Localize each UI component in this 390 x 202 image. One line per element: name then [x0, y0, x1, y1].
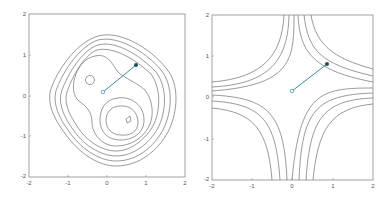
left-trajectory — [101, 63, 138, 94]
right-ytick-label: 2 — [206, 12, 210, 18]
right-xtick-label: -1 — [249, 183, 255, 189]
right-start-marker — [290, 89, 294, 93]
right-ytick-label: 1 — [206, 53, 210, 59]
right-ytick-label: 0 — [206, 94, 210, 100]
right-y-ticks: 2 1 0 -1 -2 — [204, 12, 214, 182]
left-xtick-label: 1 — [144, 180, 148, 186]
left-end-marker — [134, 63, 138, 67]
left-ytick-label: -1 — [21, 133, 27, 139]
right-ytick-label: -2 — [204, 176, 210, 182]
right-xtick-label: 1 — [331, 183, 335, 189]
right-xtick-label: -2 — [209, 183, 215, 189]
left-contours — [50, 35, 176, 166]
left-plot: -2 -1 0 1 2 2 1 0 -1 -2 — [21, 11, 188, 186]
right-trajectory — [290, 62, 329, 93]
left-xtick-label: -2 — [26, 180, 32, 186]
left-ytick-label: 1 — [23, 52, 27, 58]
left-ytick-label: 0 — [23, 93, 27, 99]
right-plot: -2 -1 0 1 2 2 1 0 -1 -2 — [204, 12, 376, 189]
left-xtick-label: 0 — [105, 180, 109, 186]
right-contours — [212, 15, 373, 180]
left-ytick-label: -2 — [21, 173, 27, 179]
left-axes-box — [29, 14, 185, 177]
right-end-marker — [325, 62, 329, 66]
left-xtick-label: 2 — [183, 180, 187, 186]
left-ytick-label: 2 — [23, 11, 27, 17]
left-start-marker — [101, 90, 105, 94]
right-xtick-label: 2 — [371, 183, 375, 189]
figure: -2 -1 0 1 2 2 1 0 -1 -2 — [0, 0, 390, 202]
right-ytick-label: -1 — [204, 136, 210, 142]
left-y-ticks: 2 1 0 -1 -2 — [21, 11, 31, 179]
left-xtick-label: -1 — [65, 180, 71, 186]
right-xtick-label: 0 — [290, 183, 294, 189]
